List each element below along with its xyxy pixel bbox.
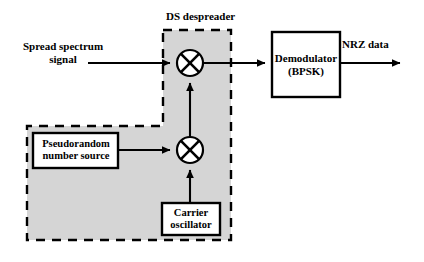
carrier-oscillator-block-label: Carrier oscillator: [162, 207, 220, 231]
ds-despreader-label: DS despreader: [166, 10, 252, 23]
prn-source-block-label: Pseudorandom number source: [34, 138, 118, 162]
spread-spectrum-signal-label: Spread spectrum signal: [8, 40, 118, 65]
nrz-data-label: NRZ data: [342, 38, 414, 51]
despread-mixer: [177, 50, 203, 76]
figure-canvas: DS despreader Spread spectrum signal NRZ…: [0, 0, 424, 262]
demodulator-block-label: Demodulator (BPSK): [272, 52, 340, 77]
carrier-mixer: [177, 137, 203, 163]
